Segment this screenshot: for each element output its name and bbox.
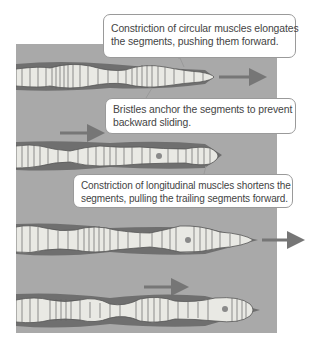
callout-longitudinal-muscles: Constriction of longitudinal muscles sho…	[73, 174, 293, 208]
callout-line: segments, pulling the trailing segments …	[81, 192, 285, 205]
worm-stage-1	[16, 62, 258, 91]
callout-line: Bristles anchor the segments to prevent	[113, 103, 288, 116]
callout-line: Constriction of longitudinal muscles sho…	[81, 179, 285, 192]
callout-line: backward sliding.	[113, 116, 288, 129]
callout-line: Constriction of circular muscles elongat…	[111, 22, 288, 35]
callout-line: the segments, pushing them forward.	[111, 35, 288, 48]
worm-stage-3	[16, 224, 258, 256]
worm-stage-4	[16, 287, 260, 328]
callout-bristles: Bristles anchor the segments to prevent …	[105, 98, 296, 134]
callout-circular-muscles: Constriction of circular muscles elongat…	[103, 14, 296, 58]
worm-stage-2	[16, 133, 222, 171]
